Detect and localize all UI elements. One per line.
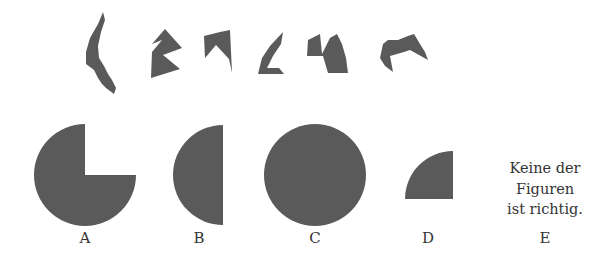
answer-e-line-1: Keine der <box>495 158 595 179</box>
answer-label-b[interactable]: B <box>179 230 219 246</box>
answer-label-e[interactable]: E <box>525 230 565 246</box>
answer-label-d[interactable]: D <box>408 230 448 246</box>
answer-shapes <box>34 124 453 226</box>
piece-5-shape <box>307 34 348 73</box>
piece-6-shape <box>380 34 428 72</box>
answer-label-c[interactable]: C <box>295 230 335 246</box>
piece-3-shape <box>204 30 232 73</box>
piece-2-shape <box>151 29 182 78</box>
puzzle-pieces <box>86 12 428 94</box>
answer-label-a[interactable]: A <box>65 230 105 246</box>
answer-e-none-correct[interactable]: Keine der Figuren ist richtig. <box>495 158 595 220</box>
piece-1-shape <box>86 12 116 94</box>
piece-4-shape <box>258 32 284 74</box>
answer-a-three-quarter-circle[interactable] <box>34 124 136 226</box>
answer-c-full-circle[interactable] <box>264 124 366 226</box>
puzzle-stage: A B C D E Keine der Figuren ist richtig. <box>0 0 609 258</box>
answer-e-line-3: ist richtig. <box>495 199 595 220</box>
answer-d-quarter-circle[interactable] <box>405 151 453 199</box>
answer-b-half-circle[interactable] <box>173 125 223 225</box>
answer-e-line-2: Figuren <box>495 179 595 200</box>
